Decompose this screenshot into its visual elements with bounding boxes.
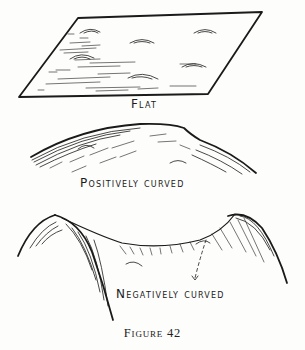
saddle-dashed-path (195, 240, 206, 278)
dome-contour-lines (32, 128, 250, 174)
saddle-middle-curve (62, 214, 235, 246)
flat-plane-mounds (70, 29, 216, 79)
saddle-right-edge (228, 215, 287, 284)
negative-curve-drawing (18, 214, 287, 320)
label-positively-curved: Positively curved (80, 176, 185, 190)
positive-curve-drawing (31, 124, 256, 174)
flat-plane-hatching (38, 34, 196, 91)
saddle-left-ridge (55, 215, 113, 320)
label-flat: Flat (131, 97, 157, 111)
flat-plane-outline (19, 12, 262, 97)
dome-mounds (78, 145, 186, 163)
dome-outline (31, 124, 256, 173)
figure-plate: Flat Positively curved Negatively curved… (0, 0, 305, 350)
saddle-left-outer-edge (18, 215, 55, 256)
saddle-mounds (126, 241, 210, 266)
flat-plane-drawing (19, 12, 262, 97)
label-negatively-curved: Negatively curved (116, 287, 225, 301)
figure-caption: Figure 42 (0, 326, 305, 341)
saddle-hatching-middle (120, 218, 264, 262)
